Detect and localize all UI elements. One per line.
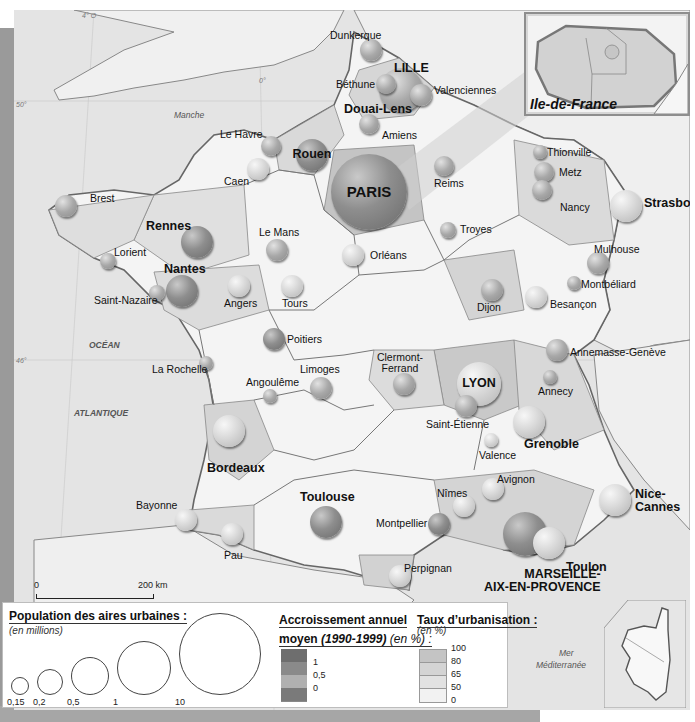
- city-label: Annecy: [538, 386, 573, 397]
- city-marker[interactable]: [599, 484, 631, 516]
- city-label: Rouen: [293, 148, 332, 161]
- city-label: Caen: [224, 176, 249, 187]
- city-label: Perpignan: [404, 563, 452, 574]
- city-marker[interactable]: [342, 244, 364, 266]
- scale-end-label: 200 km: [138, 580, 168, 590]
- city-label: Besançon: [550, 299, 597, 310]
- city-label: Limoges: [300, 364, 340, 375]
- growth-break-label: 1: [313, 657, 318, 667]
- city-marker[interactable]: [263, 389, 277, 403]
- city-marker[interactable]: [481, 279, 503, 301]
- city-marker[interactable]: [434, 156, 454, 176]
- city-marker[interactable]: [261, 136, 281, 156]
- city-label: Bordeaux: [207, 462, 265, 475]
- city-label: Angoulême: [246, 377, 299, 388]
- urbanisation-break-label: 50: [451, 682, 461, 692]
- city-label: Reims: [434, 178, 464, 189]
- sea-label: Manche: [174, 110, 204, 120]
- legend: Population des aires urbaines : (en mill…: [2, 602, 508, 708]
- city-label: Valence: [479, 450, 516, 461]
- coordinate-label: 50°: [16, 101, 27, 108]
- city-marker[interactable]: [310, 506, 342, 538]
- growth-swatch: [281, 649, 307, 663]
- city-label: Amiens: [382, 130, 417, 141]
- city-marker[interactable]: [440, 222, 456, 238]
- city-marker[interactable]: [221, 523, 243, 545]
- city-marker[interactable]: [543, 370, 557, 384]
- city-label: Brest: [90, 193, 115, 204]
- city-marker[interactable]: [393, 373, 415, 395]
- legend-growth-title-line1: Accroissement annuel: [279, 613, 407, 628]
- population-size-circle: [37, 669, 63, 695]
- city-label: La Rochelle: [152, 364, 207, 375]
- population-size-circle: [71, 657, 109, 695]
- city-marker[interactable]: [484, 433, 498, 447]
- city-label: Toulouse: [300, 491, 355, 504]
- urbanisation-break-label: 0: [451, 695, 456, 705]
- sea-label: Mer: [559, 648, 574, 658]
- city-marker[interactable]: [359, 114, 379, 134]
- city-marker[interactable]: [310, 377, 332, 399]
- sea-label: OCÉAN: [89, 340, 120, 350]
- city-marker[interactable]: [55, 195, 77, 217]
- city-marker[interactable]: [410, 84, 432, 106]
- legend-growth: Accroissement annuel moyen (1990-1999) (…: [279, 609, 432, 647]
- city-marker[interactable]: [455, 395, 477, 417]
- city-label: Valenciennes: [434, 85, 496, 96]
- population-size-circle: [179, 613, 261, 695]
- sea-label: Méditerranée: [536, 660, 586, 670]
- city-marker[interactable]: [587, 252, 609, 274]
- city-marker[interactable]: [567, 276, 581, 290]
- urbanisation-break-label: 100: [451, 643, 466, 653]
- city-marker[interactable]: [533, 145, 547, 159]
- city-marker[interactable]: [360, 39, 382, 61]
- population-size-label: 0,2: [33, 697, 46, 707]
- city-label: Saint-Étienne: [426, 419, 489, 430]
- city-label: Tours: [282, 298, 308, 309]
- city-marker[interactable]: [525, 286, 547, 308]
- city-label: Le Havre: [220, 129, 263, 140]
- city-label: Metz: [559, 167, 582, 178]
- city-label: Mulhouse: [594, 244, 640, 255]
- growth-swatch: [281, 688, 307, 702]
- city-label: Dunkerque: [330, 30, 381, 41]
- city-marker[interactable]: [428, 513, 450, 535]
- city-marker[interactable]: [532, 180, 552, 200]
- city-marker[interactable]: [546, 339, 568, 361]
- sea-label: ATLANTIQUE: [74, 408, 128, 418]
- city-label: Dijon: [477, 302, 501, 313]
- city-marker[interactable]: [513, 406, 545, 438]
- population-size-label: 0,5: [67, 697, 80, 707]
- city-marker[interactable]: [228, 275, 250, 297]
- city-label: Troyes: [460, 224, 492, 235]
- growth-break-label: 0,5: [313, 670, 326, 680]
- legend-urbanisation-subtitle: (en %): [417, 625, 446, 636]
- city-marker[interactable]: [376, 74, 396, 94]
- city-label: Montpellier: [376, 518, 427, 529]
- city-marker[interactable]: [247, 158, 269, 180]
- city-label: Toulon: [566, 561, 607, 574]
- city-marker[interactable]: [213, 415, 245, 447]
- city-marker[interactable]: [263, 328, 285, 350]
- city-marker[interactable]: [281, 275, 303, 297]
- coordinate-label: 46°: [16, 357, 27, 364]
- city-marker[interactable]: [266, 239, 288, 261]
- city-label: LYON: [462, 377, 496, 390]
- urbanisation-swatch: [419, 688, 447, 703]
- city-label: Avignon: [497, 474, 535, 485]
- city-label: Orléans: [370, 250, 407, 261]
- urbanisation-break-label: 80: [451, 656, 461, 666]
- city-marker[interactable]: [175, 509, 197, 531]
- city-label: Nîmes: [437, 488, 467, 499]
- ile-de-france-label: Ile-de-France: [530, 96, 617, 112]
- city-label: Angers: [224, 298, 257, 309]
- city-label: Grenoble: [524, 438, 579, 451]
- city-marker[interactable]: [533, 527, 565, 559]
- city-marker[interactable]: [166, 275, 198, 307]
- corsica-shape: [604, 600, 686, 708]
- city-marker[interactable]: [610, 190, 642, 222]
- city-label: Strasbourg: [644, 197, 690, 210]
- city-label: Saint-Nazaire: [94, 295, 158, 306]
- city-label: Nice-Cannes: [635, 488, 680, 514]
- city-marker[interactable]: [534, 162, 554, 182]
